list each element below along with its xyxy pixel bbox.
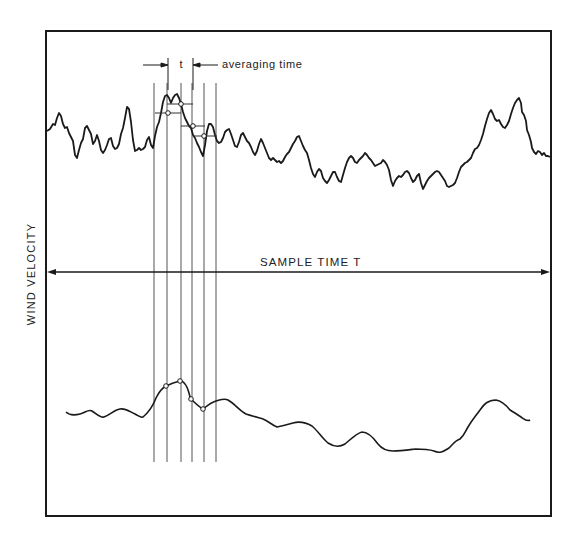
arrow-left-head — [47, 269, 56, 275]
y-axis-label: WIND VELOCITY — [25, 223, 37, 325]
arrow-right-head — [193, 63, 200, 67]
average-point — [201, 407, 206, 412]
diagram-frame — [46, 31, 551, 516]
instantaneous-velocity-trace — [47, 94, 550, 189]
averaging-marker-label: t — [179, 58, 182, 70]
averaged-velocity-trace — [66, 381, 530, 452]
sample-time-arrow — [47, 269, 550, 275]
averaging-time-label: averaging time — [222, 58, 303, 70]
arrow-left-head — [161, 63, 168, 67]
average-point — [191, 124, 196, 129]
average-point — [178, 379, 183, 384]
arrow-right-head — [541, 269, 550, 275]
sample-time-label: SAMPLE TIME T — [260, 256, 361, 268]
average-point — [166, 111, 171, 116]
average-point — [189, 397, 194, 402]
wind-velocity-diagram: WIND VELOCITY t averaging time — [0, 0, 578, 543]
average-point — [202, 134, 207, 139]
average-point — [179, 102, 184, 107]
average-point — [164, 384, 169, 389]
